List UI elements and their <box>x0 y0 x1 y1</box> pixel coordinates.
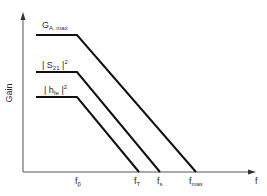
tick-f-t-sub: T <box>137 181 141 187</box>
label-hfe: | hfe |2 <box>44 84 67 96</box>
y-axis-label: Gain <box>4 81 14 105</box>
x-axis-arrow-icon <box>248 170 256 175</box>
label-s21: | S21 |2 <box>42 59 68 71</box>
tick-f-s-sub: s <box>160 181 163 187</box>
label-s21-sub: 21 <box>53 65 60 71</box>
tick-f-max: fmax <box>189 177 203 187</box>
tick-f-beta-sub: β <box>78 181 81 187</box>
tick-f-max-sub: max <box>192 181 203 187</box>
label-hfe-sup: 2 <box>64 84 67 90</box>
label-ga-max-sub: A, max <box>49 25 68 31</box>
x-axis-label: f <box>255 177 258 186</box>
y-axis-arrow-icon <box>21 12 26 20</box>
curve-ga-max <box>36 35 196 172</box>
tick-f-beta: fβ <box>75 177 81 187</box>
tick-f-t: fT <box>134 177 140 187</box>
tick-f-s: fs <box>157 177 163 187</box>
gain-frequency-diagram <box>0 0 267 196</box>
label-ga-max: GA, max <box>42 21 68 31</box>
label-ga-max-name: G <box>42 20 49 30</box>
label-s21-sup: 2 <box>64 59 67 65</box>
curve-hfe <box>36 97 139 172</box>
